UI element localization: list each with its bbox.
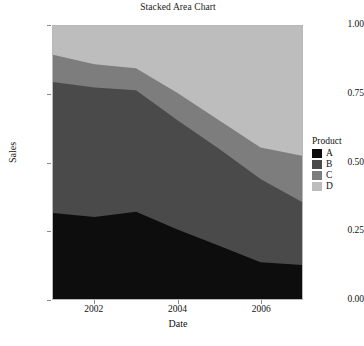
y-tick-label: 1.00 <box>324 19 364 29</box>
y-tick-label: 0.00 <box>324 294 364 304</box>
legend-item-c[interactable]: C <box>312 170 362 181</box>
legend-item-label: A <box>326 148 333 159</box>
x-axis-title: Date <box>52 318 304 329</box>
y-tick-label: 0.25 <box>324 225 364 235</box>
x-tick-mark <box>261 300 262 304</box>
y-axis-title: Sales <box>7 123 18 183</box>
chart-title: Stacked Area Chart <box>52 2 304 12</box>
y-tick-mark <box>47 94 51 95</box>
legend-swatch-icon <box>312 160 322 169</box>
stacked-area-plot <box>53 26 302 299</box>
legend-item-b[interactable]: B <box>312 159 362 170</box>
y-tick-mark <box>47 300 51 301</box>
legend-swatch-icon <box>312 182 322 191</box>
legend-items: ABCD <box>312 148 362 192</box>
legend-item-label: B <box>326 159 332 170</box>
x-tick-mark <box>178 300 179 304</box>
y-tick-mark <box>47 231 51 232</box>
x-tick-label: 2004 <box>153 304 203 314</box>
legend: Product ABCD <box>312 136 362 192</box>
chart-root: Stacked Area Chart 0.000.250.500.751.00 … <box>0 0 364 346</box>
legend-item-d[interactable]: D <box>312 181 362 192</box>
legend-item-a[interactable]: A <box>312 148 362 159</box>
legend-swatch-icon <box>312 171 322 180</box>
legend-title: Product <box>312 136 362 146</box>
legend-swatch-icon <box>312 149 322 158</box>
x-tick-label: 2002 <box>69 304 119 314</box>
legend-item-label: C <box>326 170 332 181</box>
legend-item-label: D <box>326 181 333 192</box>
y-tick-mark <box>47 25 51 26</box>
y-tick-label: 0.75 <box>324 88 364 98</box>
y-tick-mark <box>47 163 51 164</box>
plot-panel <box>52 25 303 300</box>
x-tick-label: 2006 <box>236 304 286 314</box>
x-tick-mark <box>94 300 95 304</box>
